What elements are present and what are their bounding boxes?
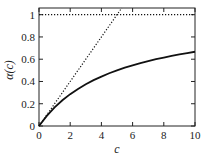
y-tick-label: 0.2 [21,98,35,110]
y-tick-label: 1 [30,9,36,21]
y-tick-label: 0.4 [21,75,35,87]
series-linear-asymptote [39,8,122,126]
x-tick-label: 6 [130,129,136,141]
x-tick-label: 0 [36,129,42,141]
y-tick-label: 0.6 [21,53,35,65]
x-tick-label: 4 [99,129,105,141]
plot-frame [39,8,195,126]
series-alpha-curve [39,52,195,126]
chart: 024681000.20.40.60.81 c α(c) [0,0,202,158]
x-tick-label: 8 [161,129,167,141]
x-tick-label: 10 [190,129,202,141]
x-tick-label: 2 [67,129,73,141]
x-axis-label: c [114,142,120,156]
y-tick-label: 0.8 [21,31,35,43]
y-axis-label: α(c) [2,60,16,80]
y-tick-label: 0 [30,120,36,132]
